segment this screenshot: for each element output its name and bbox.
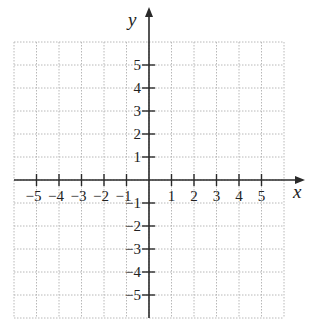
y-tick-label: 4 bbox=[134, 80, 142, 96]
y-tick-label: −4 bbox=[125, 264, 141, 280]
y-tick-label: −2 bbox=[125, 218, 141, 234]
y-tick-label: 2 bbox=[134, 126, 142, 142]
y-tick-label: −1 bbox=[125, 195, 141, 211]
x-tick-label: 4 bbox=[235, 188, 243, 204]
x-tick-label: 3 bbox=[213, 188, 221, 204]
y-tick-label: −5 bbox=[125, 287, 141, 303]
x-tick-label: −3 bbox=[71, 188, 87, 204]
x-tick-label: 2 bbox=[190, 188, 198, 204]
y-tick-label: 3 bbox=[134, 103, 142, 119]
x-tick-label: 5 bbox=[258, 188, 266, 204]
x-tick-label: 1 bbox=[168, 188, 176, 204]
x-axis-label: x bbox=[292, 181, 302, 202]
y-tick-label: 5 bbox=[134, 57, 142, 73]
x-tick-label: −2 bbox=[93, 188, 109, 204]
y-tick-label: 1 bbox=[134, 149, 142, 165]
x-tick-label: −4 bbox=[48, 188, 64, 204]
x-tick-label: −5 bbox=[26, 188, 42, 204]
y-tick-label: −3 bbox=[125, 241, 141, 257]
y-axis-label: y bbox=[126, 9, 137, 30]
coordinate-plane: −5−4−3−2−112345−5−4−3−2−112345 x y bbox=[0, 0, 318, 334]
